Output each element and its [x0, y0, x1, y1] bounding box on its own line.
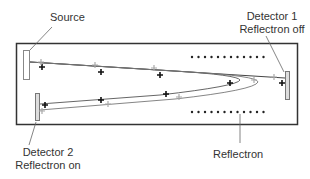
- source-label: Source: [50, 11, 85, 24]
- source-rect: [24, 51, 30, 80]
- detector-2-pointer-line: [29, 122, 36, 145]
- detector-2-label-line1: Detector 2: [8, 146, 88, 159]
- detector-2-label-line2: Reflectron on: [8, 159, 88, 172]
- detector-2-label: Detector 2 Reflectron on: [8, 146, 88, 172]
- source-pointer-line: [30, 27, 52, 50]
- detector-1-label-line1: Detector 1: [232, 10, 310, 23]
- detector-1-label: Detector 1 Reflectron off: [232, 10, 310, 36]
- reflectron-label: Reflectron: [213, 148, 263, 161]
- detector-1-label-line2: Reflectron off: [232, 23, 310, 36]
- detector-1-rect: [286, 72, 290, 100]
- reflectron-top-dots: [191, 56, 265, 58]
- reflectron-bottom-dots: [191, 111, 265, 113]
- light-ion-markers: [38, 59, 277, 114]
- detector-2-rect: [36, 94, 40, 121]
- detector-1-pointer-line: [266, 36, 284, 72]
